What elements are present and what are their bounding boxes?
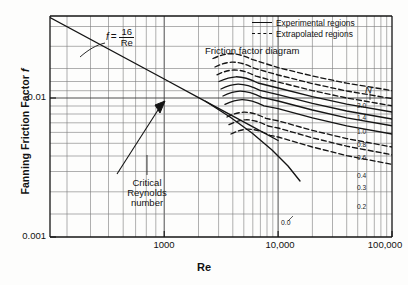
x-axis-title: Re <box>0 262 408 274</box>
formula-numerator: 16 <box>119 27 134 38</box>
critical-line-3: number <box>110 198 184 208</box>
formula-fraction: 16 Re <box>119 27 135 47</box>
legend-swatch-dashed <box>252 33 272 34</box>
laminar-equation-annotation: f = 16 Re <box>106 27 135 47</box>
y-axis-symbol: f <box>19 68 31 72</box>
curve-n-0-3 <box>229 120 392 155</box>
formula-symbol-f: f <box>106 32 109 43</box>
formula-denominator: Re <box>119 38 135 48</box>
legend-label-extrapolated: Extrapolated regions <box>276 29 353 39</box>
tick-marks <box>50 98 392 237</box>
x-tick-label-10000: 10,000 <box>245 240 315 250</box>
critical-arrow-head <box>155 101 165 113</box>
legend-swatch-solid <box>252 22 272 23</box>
data-curves <box>50 18 392 182</box>
friction-factor-diagram: 2.0 1.4 1.0 0.8 0.6 0.4 0.3 0.2 Fanning … <box>0 0 408 285</box>
legend-item-experimental: Experimental regions <box>252 17 355 28</box>
legend-item-extrapolated: Extrapolated regions <box>252 28 355 39</box>
plot-canvas: 2.0 1.4 1.0 0.8 0.6 0.4 0.3 0.2 <box>0 0 408 285</box>
n-label-0-0: 0.0 <box>281 219 290 226</box>
chart-title: Friction factor diagram <box>205 46 300 56</box>
curve-n-0-2 <box>231 129 392 164</box>
formula-equals: = <box>111 32 117 43</box>
n-label-1-0: 1.0 <box>357 128 366 135</box>
x-tick-label-1000: 1000 <box>129 240 199 250</box>
critical-reynolds-annotation: Critical Reynolds number <box>110 178 184 208</box>
x-tick-label-100000: 100,000 <box>350 240 408 250</box>
n-label-0-4: 0.4 <box>357 172 366 179</box>
y-tick-label-0.01: 0.01 <box>0 92 46 102</box>
legend-label-experimental: Experimental regions <box>276 18 355 28</box>
legend: Experimental regions Extrapolated region… <box>252 17 355 39</box>
n-label-0-3: 0.3 <box>357 184 366 191</box>
n-label-1-4: 1.4 <box>357 114 366 121</box>
n-group-header: N <box>365 85 372 95</box>
y-axis-title: Fanning Friction Factor f <box>20 62 31 202</box>
n-label-0-8: 0.8 <box>357 141 366 148</box>
y-tick-label-0.001: 0.001 <box>0 231 46 241</box>
n-label-2-0: 2.0 <box>357 102 366 109</box>
n-label-0-6: 0.6 <box>357 154 366 161</box>
n-label-0-2: 0.2 <box>357 203 366 210</box>
n-value-labels: 2.0 1.4 1.0 0.8 0.6 0.4 0.3 0.2 <box>357 102 366 210</box>
